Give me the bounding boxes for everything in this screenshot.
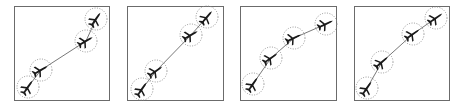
aircraft-icon (357, 78, 376, 98)
aircraft-icon (86, 9, 105, 29)
aircraft-icon (243, 74, 262, 94)
aircraft-icon (18, 77, 37, 97)
panel-1-trajectory (17, 8, 107, 98)
aircraft-icon (315, 15, 335, 33)
aircraft-icon (132, 79, 151, 99)
trajectory-line (142, 17, 207, 89)
trajectory-line (253, 24, 326, 84)
aircraft-icon (30, 61, 50, 80)
trajectory-overlay (0, 0, 461, 110)
trajectory-line (367, 18, 436, 88)
aircraft-icon (260, 49, 280, 68)
panel-4-trajectory (356, 7, 447, 99)
trajectory-line (28, 19, 96, 87)
aircraft-icon (425, 9, 445, 28)
aircraft-icon (75, 32, 95, 51)
panel-3-trajectory (242, 13, 337, 95)
aircraft-icon (180, 26, 200, 45)
panel-2-trajectory (131, 6, 218, 100)
